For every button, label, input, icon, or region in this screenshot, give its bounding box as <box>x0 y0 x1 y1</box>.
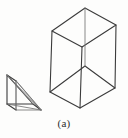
figure-caption: (a) <box>0 117 128 130</box>
box-edge-right-vertical <box>115 25 116 88</box>
triangular-prism-group <box>7 75 41 110</box>
figure-container: (a) <box>0 0 128 138</box>
box-top-face <box>52 8 116 47</box>
box-bottom-face <box>50 66 115 108</box>
box-edge-front-vertical <box>80 47 82 108</box>
rectangular-box-group <box>50 8 116 108</box>
box-edge-left-vertical <box>50 31 52 92</box>
